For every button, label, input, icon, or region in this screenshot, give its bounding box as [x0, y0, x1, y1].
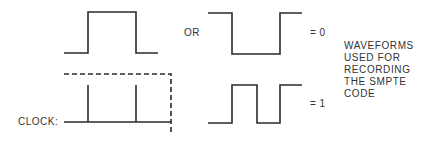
zero-waveform-b [208, 13, 302, 54]
or-label: OR [184, 27, 200, 38]
zero-waveform-a [64, 12, 158, 53]
equals-zero-label: = 0 [310, 27, 326, 38]
bit-cell-dashed-boundary [64, 74, 171, 133]
caption-line: CODE [344, 88, 414, 100]
diagram-caption: WAVEFORMS USED FOR RECORDING THE SMPTE C… [344, 40, 414, 100]
caption-line: USED FOR [344, 52, 414, 64]
equals-one-label: = 1 [310, 98, 326, 109]
clock-label: CLOCK: [18, 116, 58, 127]
caption-line: RECORDING [344, 64, 414, 76]
caption-line: WAVEFORMS [344, 40, 414, 52]
one-waveform [208, 85, 302, 123]
caption-line: THE SMPTE [344, 76, 414, 88]
